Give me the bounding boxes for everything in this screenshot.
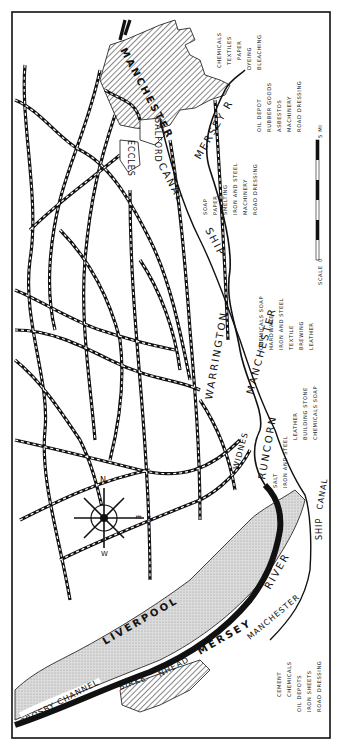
compass-e: E [134, 515, 142, 519]
svg-text:MACHINERY: MACHINERY [242, 179, 248, 215]
svg-text:BREWING: BREWING [298, 321, 304, 350]
svg-text:OIL DEPOTS: OIL DEPOTS [296, 675, 302, 712]
label-runcorn: RUNCORN [256, 414, 278, 480]
scale-end: 5 MI [317, 125, 323, 138]
svg-text:BUILDING STONE: BUILDING STONE [302, 387, 308, 440]
svg-text:ASBESTOS: ASBESTOS [276, 100, 282, 132]
svg-text:IRON AND STEEL: IRON AND STEEL [282, 436, 288, 488]
svg-text:TEXTILE: TEXTILE [288, 325, 294, 351]
label-mersey-r: MERSEY R [192, 98, 235, 161]
svg-text:BLEACHING: BLEACHING [256, 34, 262, 70]
svg-text:IRON AND STEEL: IRON AND STEEL [278, 298, 284, 350]
label-widnes: WIDNES [231, 431, 250, 471]
svg-text:ROAD DRESSING: ROAD DRESSING [296, 81, 302, 132]
svg-text:ROAD DRESSING: ROAD DRESSING [316, 661, 322, 712]
svg-text:IRON AND STEEL: IRON AND STEEL [232, 163, 238, 215]
label-canal-upper: CANAL [156, 161, 186, 205]
svg-text:LEATHER: LEATHER [292, 413, 298, 440]
svg-text:ROAD DRESSING: ROAD DRESSING [252, 164, 258, 215]
svg-text:CHEMICALS SOAP: CHEMICALS SOAP [312, 386, 318, 440]
svg-text:PAPER: PAPER [236, 41, 242, 60]
label-manchester-lower: MANCHESTER [246, 592, 302, 641]
industries-manchester-mid: OIL DEPOT RUBBER GOODS ASBESTOS MACHINER… [256, 81, 302, 132]
compass-w: W [101, 550, 108, 558]
svg-text:SALT: SALT [272, 473, 278, 488]
svg-text:LEATHER: LEATHER [308, 323, 314, 350]
svg-text:CEMENT: CEMENT [276, 671, 282, 697]
compass-n: N [100, 476, 106, 485]
svg-text:TEXTILES: TEXTILES [226, 36, 232, 66]
svg-text:DYEING: DYEING [246, 47, 252, 70]
svg-text:IRON SHEETS: IRON SHEETS [306, 670, 312, 712]
scale-bar: SCALE 0 5 MI [316, 125, 323, 285]
industries-manchester-top: CHEMICALS TEXTILES PAPER DYEING BLEACHIN… [216, 32, 262, 70]
industries-birkenhead: CEMENT CHEMICALS OIL DEPOTS IRON SHEETS … [276, 661, 322, 712]
scale-start: 0 [317, 258, 323, 262]
svg-text:RUBBER GOODS: RUBBER GOODS [266, 82, 272, 132]
svg-text:SMELTING: SMELTING [222, 184, 228, 215]
svg-text:CHEMICALS: CHEMICALS [216, 32, 222, 68]
svg-text:HARDWARE: HARDWARE [268, 315, 274, 350]
svg-text:CHEMICALS SOAP: CHEMICALS SOAP [258, 296, 264, 350]
svg-text:SOAP: SOAP [202, 199, 208, 215]
svg-text:CHEMICALS: CHEMICALS [286, 661, 292, 697]
compass-s: S [147, 515, 152, 523]
label-canal-lower: CANAL [315, 477, 329, 510]
svg-text:OIL DEPOT: OIL DEPOT [256, 99, 262, 132]
label-salford: SALFORD [153, 118, 162, 163]
map: MANCHESTER SALFORD ECCLES WARRINGTON WID… [0, 0, 341, 750]
label-eccles: ECCLES [126, 140, 135, 177]
industries-runcorn: SALT IRON AND STEEL LEATHER BUILDING STO… [272, 386, 318, 488]
svg-text:MACHINERY: MACHINERY [286, 96, 292, 132]
label-warrington: WARRINGTON [203, 310, 229, 400]
svg-text:PAPER: PAPER [212, 196, 218, 215]
scale-label: SCALE [317, 265, 323, 285]
label-ship-lower: SHIP [315, 518, 324, 540]
